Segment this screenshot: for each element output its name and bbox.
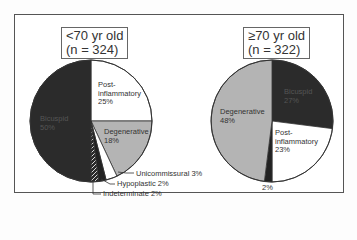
slice-label-line: Indeterminate 2% [103, 189, 162, 198]
slice-label-other: 2% [262, 183, 273, 192]
slice-label-line: 23% [275, 145, 290, 154]
slice-label-hypoplastic: Hypoplastic 2% [117, 179, 169, 188]
slice-label-line: Hypoplastic 2% [117, 179, 169, 188]
slice-label-indeterminate: Indeterminate 2% [103, 189, 162, 198]
slice-label-line: 25% [98, 97, 113, 106]
slice-label-line: 2% [262, 183, 273, 192]
slice-label-line: 27% [284, 96, 299, 105]
slice-label-unicommissural: Unicommissural 3% [136, 169, 203, 178]
title-under-70-line2: (n = 324) [66, 43, 123, 57]
title-70-and-over-line1: ≥70 yr old [248, 29, 305, 43]
title-under-70-line1: <70 yr old [66, 29, 123, 43]
title-70-and-over: ≥70 yr old(n = 322) [243, 27, 310, 59]
slice-label-line: 50% [40, 123, 55, 132]
slice-label-line: 18% [104, 136, 119, 145]
title-70-and-over-line2: (n = 322) [248, 43, 305, 57]
pie-70-and-over: Bicuspid27%Post-inflammatory23%2%Degener… [211, 60, 333, 192]
pie-under-70: Post-inflammatory25%Degenerative18%Unico… [30, 60, 203, 198]
slice-label-line: Unicommissural 3% [136, 169, 203, 178]
title-under-70: <70 yr old(n = 324) [61, 27, 128, 59]
slice-label-line: 48% [220, 116, 235, 125]
